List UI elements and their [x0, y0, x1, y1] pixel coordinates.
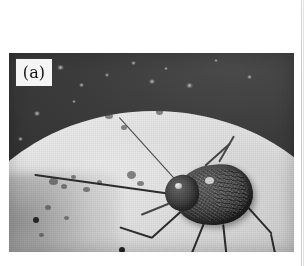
page-edge-rule: [301, 0, 302, 266]
antenna-left-tip: [33, 217, 39, 223]
background-speck: [72, 100, 76, 103]
host-surface-blemish: [105, 113, 113, 119]
background-speck: [164, 67, 168, 70]
panel-label-text: (a): [23, 65, 46, 81]
host-surface-blemish: [185, 101, 191, 106]
host-surface-blemish: [137, 181, 144, 186]
background-speck: [34, 111, 40, 116]
background-speck: [214, 59, 218, 62]
background-speck: [247, 75, 252, 79]
host-surface-blemish: [156, 109, 163, 115]
figure-page: (a): [0, 0, 307, 266]
background-speck: [131, 61, 136, 65]
background-speck: [149, 79, 155, 84]
host-surface-blemish: [64, 216, 69, 220]
background-speck: [186, 83, 193, 88]
host-surface-blemish: [83, 187, 90, 192]
page-edge-rule-secondary: [303, 0, 304, 266]
background-speck: [105, 73, 109, 77]
background-speck: [79, 83, 84, 87]
insect-pronotum-spot: [205, 177, 214, 184]
host-surface-blemish: [61, 184, 67, 189]
host-surface-blemish: [39, 233, 44, 237]
figure-photo: (a): [9, 53, 294, 252]
host-surface-blemish: [45, 205, 51, 210]
background-speck: [18, 137, 23, 141]
insect-eye: [175, 183, 182, 189]
background-speck: [57, 65, 64, 70]
leg-front-left-tip: [119, 247, 125, 252]
panel-label-box: (a): [15, 58, 53, 87]
host-surface-blemish: [127, 171, 136, 179]
